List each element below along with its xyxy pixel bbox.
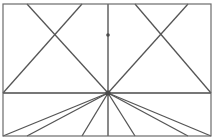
center-star-node <box>105 90 110 95</box>
diagram-background <box>0 0 218 139</box>
diagram-canvas <box>0 0 218 139</box>
upper-crossing-node <box>106 33 110 37</box>
geometric-line-diagram <box>0 0 218 139</box>
